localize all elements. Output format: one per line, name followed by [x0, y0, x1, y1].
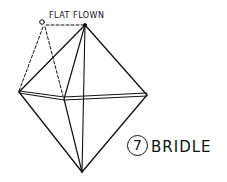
- vertical-spine: [82, 25, 85, 172]
- bridle-line-left: [19, 27, 43, 91]
- diagram-title: BRIDLE: [151, 138, 212, 156]
- apex-dot: [84, 24, 87, 27]
- bridle-line-center: [45, 27, 63, 96]
- bridle-loop-icon: [40, 20, 45, 25]
- edge-top-right: [85, 25, 147, 95]
- step-number-badge: 7: [127, 135, 148, 156]
- edge-bottom-right: [82, 95, 147, 172]
- flat-flown-label: FLAT FLOWN: [49, 11, 105, 20]
